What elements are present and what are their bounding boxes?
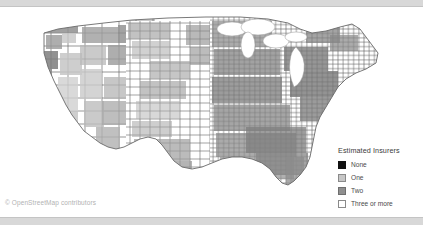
legend-label-three-or-more: Three or more: [351, 200, 393, 207]
legend-item-two[interactable]: Two: [338, 185, 422, 196]
legend-label-one: One: [351, 174, 363, 181]
region-plains: [126, 21, 220, 193]
map-canvas[interactable]: © OpenStreetMap contributors Estimated I…: [0, 7, 423, 218]
legend-item-none[interactable]: None: [338, 159, 422, 170]
map-figure: © OpenStreetMap contributors Estimated I…: [0, 0, 423, 225]
legend-swatch-one: [338, 174, 346, 182]
legend-swatch-none: [338, 161, 346, 169]
legend-swatch-two: [338, 187, 346, 195]
top-border-band: [0, 0, 423, 7]
legend-swatch-three-or-more: [338, 200, 346, 208]
legend-label-none: None: [351, 161, 367, 168]
legend-label-two: Two: [351, 187, 363, 194]
osm-attribution[interactable]: © OpenStreetMap contributors: [5, 199, 96, 206]
bottom-border-band: [0, 217, 423, 225]
map-legend: Estimated Insurers None One Two Three or…: [338, 146, 422, 211]
legend-item-three-or-more[interactable]: Three or more: [338, 198, 422, 209]
legend-item-one[interactable]: One: [338, 172, 422, 183]
legend-title: Estimated Insurers: [338, 146, 422, 155]
